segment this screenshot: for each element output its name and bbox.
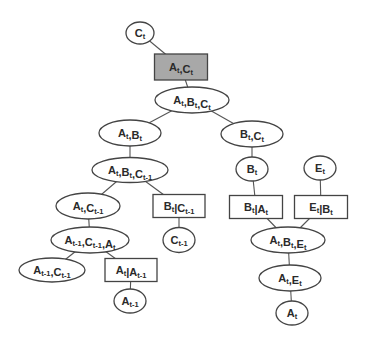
clique-node-n4: Bt,Ct xyxy=(221,121,283,147)
clique-node-n17: At,Et xyxy=(259,265,321,291)
clique-node-n14: At,Bt,Et xyxy=(251,227,325,253)
factor-node-n9: Bt|Ct-1 xyxy=(153,195,205,218)
clique-node-n3: At,Bt xyxy=(99,120,161,146)
clique-node-n0: Ct xyxy=(126,22,154,44)
factor-node-n16: At|At-1 xyxy=(105,259,157,282)
factor-node-n11: Et|Bt xyxy=(295,196,348,219)
clique-node-n15: At-1,Ct-1 xyxy=(19,258,85,282)
factor-node-n1: At,Ct xyxy=(155,54,208,80)
junction-tree-diagram: CtAt,CtAt,Bt,CtAt,BtBt,CtAt,Bt,Ct-1BtEtA… xyxy=(0,0,368,345)
clique-node-n8: At,Ct-1 xyxy=(56,193,120,219)
clique-node-n12: At-1,Ct-1,At xyxy=(51,227,129,253)
clique-node-n6: Bt xyxy=(236,157,268,181)
clique-node-n19: At xyxy=(276,301,308,325)
clique-node-n13: Ct-1 xyxy=(163,228,195,253)
factor-node-n10: Bt|At xyxy=(230,196,283,219)
clique-node-n7: Et xyxy=(304,156,336,180)
tree-canvas: CtAt,CtAt,Bt,CtAt,BtBt,CtAt,Bt,Ct-1BtEtA… xyxy=(0,0,368,345)
node-layer: CtAt,CtAt,Bt,CtAt,BtBt,CtAt,Bt,Ct-1BtEtA… xyxy=(19,22,348,325)
clique-node-n2: At,Bt,Ct xyxy=(155,87,229,113)
clique-node-n18: At-1 xyxy=(114,289,146,313)
clique-node-n5: At,Bt,Ct-1 xyxy=(92,158,168,183)
